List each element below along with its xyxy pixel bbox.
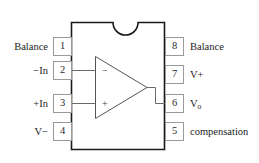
pin-number-8: 8 xyxy=(172,41,177,52)
pin-label-8-balance: Balance xyxy=(190,42,224,53)
pin-number-6: 6 xyxy=(172,98,177,109)
pin-box-7[interactable]: 7 xyxy=(165,65,184,84)
pin-number-2: 2 xyxy=(60,65,65,76)
pin-box-2[interactable]: 2 xyxy=(53,61,72,80)
pin-label-7-positive-supply: V+ xyxy=(190,70,204,81)
pin-number-7: 7 xyxy=(172,69,177,80)
ic-package-graphic xyxy=(0,0,259,163)
pin-label-1-text: Balance xyxy=(14,41,48,52)
pin-label-7-text: V+ xyxy=(190,69,204,80)
pin-label-2-text: −In xyxy=(33,65,48,76)
pin-box-8[interactable]: 8 xyxy=(165,37,184,56)
pin-number-5: 5 xyxy=(172,126,177,137)
pin-label-6-text: V xyxy=(190,98,198,109)
pin-label-4-text: V− xyxy=(34,126,48,137)
pin-label-6-output: Vo xyxy=(190,99,201,110)
pin-number-4: 4 xyxy=(60,126,65,137)
pin-label-8-text: Balance xyxy=(190,41,224,52)
pin-label-5-compensation: compensation xyxy=(190,127,248,138)
pin-number-1: 1 xyxy=(60,41,65,52)
pin-label-4-negative-supply: V− xyxy=(0,127,48,138)
pin-label-1-balance: Balance xyxy=(0,42,48,53)
inverting-input-sign: − xyxy=(102,66,108,76)
noninverting-input-sign: + xyxy=(102,99,108,109)
ic-body-outline xyxy=(72,23,165,150)
pin-box-6[interactable]: 6 xyxy=(165,94,184,113)
pin-label-2-inverting-input: −In xyxy=(0,66,48,77)
opamp-pinout-diagram: − + 1 2 3 4 8 7 6 5 Balance −In +In V− B… xyxy=(0,0,259,163)
pin-number-3: 3 xyxy=(60,98,65,109)
pin-label-5-text: compensation xyxy=(190,126,248,137)
pin-box-1[interactable]: 1 xyxy=(53,37,72,56)
pin-label-3-text: +In xyxy=(33,98,48,109)
pin-box-3[interactable]: 3 xyxy=(53,94,72,113)
pin-box-5[interactable]: 5 xyxy=(165,122,184,141)
pin-label-3-noninverting-input: +In xyxy=(0,99,48,110)
pin-label-6-subscript: o xyxy=(198,102,202,111)
pin-box-4[interactable]: 4 xyxy=(53,122,72,141)
